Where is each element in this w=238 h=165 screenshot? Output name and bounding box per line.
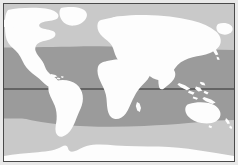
map-frame <box>3 3 235 162</box>
world-map-figure <box>0 0 238 165</box>
world-map-svg <box>4 4 234 161</box>
